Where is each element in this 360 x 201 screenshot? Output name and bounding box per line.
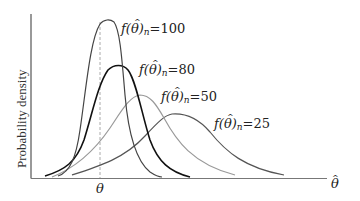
svg-text:^: ^ xyxy=(174,85,181,94)
chart: Probability density θ θ ^ f(θ)n=100 ^ f(… xyxy=(0,0,360,201)
x-axis-label-hat: ^ xyxy=(332,173,339,182)
y-axis-label: Probability density xyxy=(14,69,29,168)
curve-n100 xyxy=(58,20,162,177)
theta-tick-label: θ xyxy=(96,181,104,196)
svg-text:f(θ)n=100: f(θ)n=100 xyxy=(120,21,185,37)
svg-text:^: ^ xyxy=(227,112,234,121)
label-n50: f(θ)n=50 ^ xyxy=(160,85,217,105)
svg-text:f(θ)n=25: f(θ)n=25 xyxy=(213,116,270,132)
curve-n80 xyxy=(45,66,190,178)
label-n80: f(θ)n=80 ^ xyxy=(138,58,195,78)
svg-text:^: ^ xyxy=(152,58,159,67)
svg-text:^: ^ xyxy=(134,17,141,26)
svg-text:f(θ)n=50: f(θ)n=50 xyxy=(160,89,217,105)
label-n100: f(θ)n=100 ^ xyxy=(120,17,185,37)
svg-text:f(θ)n=80: f(θ)n=80 xyxy=(138,62,195,78)
label-n25: f(θ)n=25 ^ xyxy=(213,112,270,132)
